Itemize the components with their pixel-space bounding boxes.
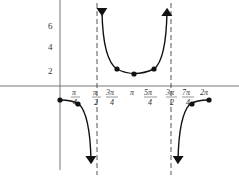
svg-text:4: 4 (148, 98, 152, 107)
curve-middle-branch (102, 12, 167, 74)
svg-text:3π: 3π (105, 88, 115, 97)
curve-left-branch (60, 100, 91, 160)
svg-text:π: π (130, 88, 135, 97)
secant-graph: 6 4 2 π4 π2 3π4 π 5π4 3π2 7π4 2π (0, 0, 239, 180)
svg-text:2: 2 (94, 98, 98, 107)
svg-text:4: 4 (110, 98, 114, 107)
svg-text:π: π (72, 88, 77, 97)
svg-text:2: 2 (170, 98, 174, 107)
y-tick-label: 2 (48, 66, 53, 76)
svg-text:7π: 7π (182, 88, 191, 97)
curve-right-branch (178, 100, 208, 160)
y-tick-label: 6 (48, 21, 53, 31)
y-tick-label: 4 (48, 42, 53, 52)
svg-text:5π: 5π (144, 88, 153, 97)
x-tick-labels: π4 π2 3π4 π 5π4 3π2 7π4 2π (71, 88, 209, 107)
svg-text:3π: 3π (165, 88, 175, 97)
svg-text:2π: 2π (200, 88, 209, 97)
